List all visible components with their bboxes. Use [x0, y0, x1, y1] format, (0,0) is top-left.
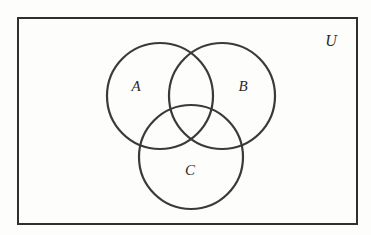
- set-label-a: A: [130, 78, 141, 94]
- universe-label: U: [325, 32, 338, 49]
- set-circle-c: [139, 105, 243, 209]
- set-label-b: B: [238, 78, 247, 94]
- venn-diagram-figure: A B C U: [0, 0, 371, 235]
- set-circle-b: [169, 43, 275, 149]
- universe-rectangle: [18, 18, 357, 224]
- set-label-c: C: [185, 162, 196, 178]
- venn-diagram-canvas: A B C U: [0, 0, 371, 235]
- set-circle-a: [107, 43, 213, 149]
